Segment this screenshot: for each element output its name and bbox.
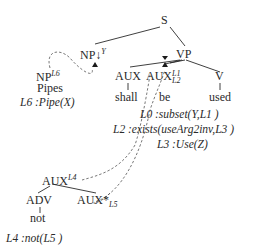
substitution-marker-np <box>92 62 98 67</box>
node-aux-foot: AUX*L5 <box>77 194 117 211</box>
semantics-l3: L3 :Use(Z) <box>157 138 208 150</box>
node-s: S <box>161 14 168 26</box>
semantics-l0: L0 :subset(Y,L1 ) <box>140 108 219 120</box>
word-pipes: Pipes <box>37 82 63 94</box>
word-used: used <box>209 91 231 103</box>
node-v: V <box>215 70 224 82</box>
word-not: not <box>30 212 45 224</box>
edge-s-vp <box>170 27 185 46</box>
edge-vp-aux-shall <box>130 60 180 67</box>
node-aux-root: AUXL4 <box>42 172 76 187</box>
tag-derivation-diagram: S NP↓Y VP AUX AUXL1L2 V shall be used NP… <box>0 0 263 249</box>
word-shall: shall <box>115 91 138 103</box>
edge-s-np <box>95 27 160 44</box>
semantics-not: L4 :not(L5 ) <box>6 232 62 244</box>
semantics-l2: L2 :exists(useArg2inv,L3 ) <box>113 123 234 135</box>
word-be: be <box>159 91 170 103</box>
semantics-pipes: L6 :Pipe(X) <box>20 96 75 108</box>
node-np-substitution: NP↓Y <box>80 46 106 61</box>
node-aux-shall: AUX <box>115 70 141 82</box>
node-adv: ADV <box>26 194 52 206</box>
node-aux-be: AUXL1L2 <box>146 70 180 84</box>
node-vp: VP <box>176 48 191 60</box>
